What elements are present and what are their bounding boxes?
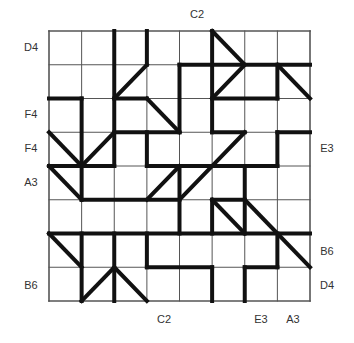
path-segment: [277, 65, 310, 99]
bottom-label: E3: [254, 313, 267, 325]
path-segment: [212, 65, 245, 99]
top-label: C2: [190, 8, 204, 20]
left-label: F4: [25, 108, 38, 120]
path-segment: [82, 267, 115, 301]
right-label: D4: [320, 279, 334, 291]
path-segment: [114, 267, 147, 301]
path-segment: [82, 132, 115, 166]
path-segment: [49, 166, 82, 200]
path-segment: [49, 132, 82, 166]
path-segment: [114, 65, 147, 99]
left-label: A3: [24, 176, 37, 188]
path-segment: [212, 31, 245, 65]
bottom-label: A3: [286, 313, 299, 325]
left-label: B6: [24, 279, 37, 291]
path-segment: [49, 234, 82, 268]
puzzle-grid: [0, 0, 354, 343]
left-label: F4: [25, 142, 38, 154]
path-segment: [212, 200, 245, 234]
bottom-label: C2: [157, 313, 171, 325]
path-segment: [147, 99, 180, 133]
right-label: B6: [320, 245, 333, 257]
left-label: D4: [24, 41, 38, 53]
right-label: E3: [320, 142, 333, 154]
path-segment: [147, 166, 180, 200]
